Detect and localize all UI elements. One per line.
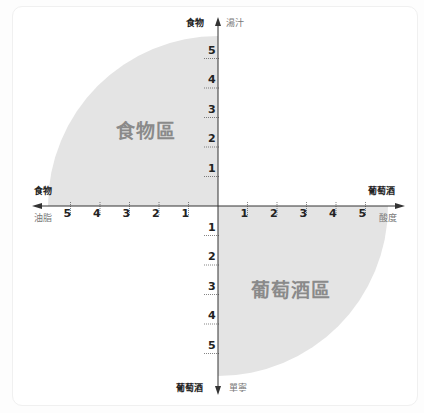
x-tick-label-left: 4 — [93, 209, 101, 219]
x-tick-label-left: 5 — [64, 209, 72, 219]
y-tick-label-up: 1 — [208, 164, 216, 174]
y-tick-label-down: 4 — [208, 311, 216, 321]
left-axis-light-label: 油脂 — [34, 213, 52, 223]
right-axis-light-label: 酸度 — [379, 213, 397, 223]
arrow-right-icon — [395, 203, 405, 209]
y-tick-label-up: 3 — [208, 105, 216, 115]
x-tick-label-right: 3 — [300, 209, 308, 219]
y-tick-label-up: 5 — [208, 46, 216, 56]
x-tick-label-left: 1 — [182, 209, 190, 219]
right-axis-bold-label: 葡萄酒 — [368, 186, 395, 196]
arrow-up-icon — [215, 17, 221, 26]
y-tick-label-down: 1 — [208, 223, 216, 233]
left-axis-bold-label: 食物 — [34, 186, 52, 196]
y-tick-label-down: 5 — [208, 341, 216, 351]
x-tick-label-left: 3 — [123, 209, 131, 219]
x-tick-label-right: 4 — [329, 209, 337, 219]
bottom-axis-light-label: 單寧 — [229, 383, 247, 393]
arrow-left-icon — [32, 203, 42, 209]
x-tick-label-right: 2 — [270, 209, 278, 219]
x-tick-label-right: 5 — [359, 209, 367, 219]
top-axis-light-label: 湯汁 — [226, 18, 244, 28]
y-tick-label-up: 2 — [208, 134, 216, 144]
bottom-axis-bold-label: 葡萄酒 — [176, 383, 203, 393]
top-axis-bold-label: 食物 — [186, 18, 204, 28]
axes — [32, 17, 405, 395]
arrow-down-icon — [215, 386, 221, 395]
x-tick-label-left: 2 — [152, 209, 160, 219]
y-tick-label-up: 4 — [208, 75, 216, 85]
food-zone-label: 食物區 — [116, 116, 176, 143]
y-tick-label-down: 2 — [208, 252, 216, 262]
y-tick-label-down: 3 — [208, 282, 216, 292]
x-tick-label-right: 1 — [241, 209, 249, 219]
wine-zone-label: 葡萄酒區 — [251, 275, 331, 302]
